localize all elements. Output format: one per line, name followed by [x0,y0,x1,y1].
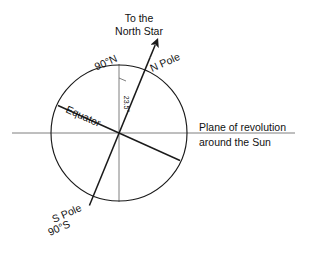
tilt-angle-label: 23.5° [123,96,130,113]
diagram-canvas: To the North Star 90°N N Pole 23.5° Equa… [0,0,309,255]
plane-label-line1: Plane of revolution [199,121,286,133]
equator-label: Equator [64,103,103,129]
north-star-arrow [150,45,155,57]
tilt-angle-tick [119,78,126,81]
earth-axis-line [89,57,150,205]
earth-tilt-diagram: To the North Star 90°N N Pole 23.5° Equa… [0,0,309,255]
north-star-label-line2: North Star [115,25,163,37]
north-pole-name-label: N Pole [148,50,182,74]
plane-label-line2: around the Sun [199,136,271,148]
north-star-label-line1: To the [125,12,154,24]
south-pole-degrees-label: 90°S [46,218,72,238]
north-pole-degrees-label: 90°N [92,52,118,73]
